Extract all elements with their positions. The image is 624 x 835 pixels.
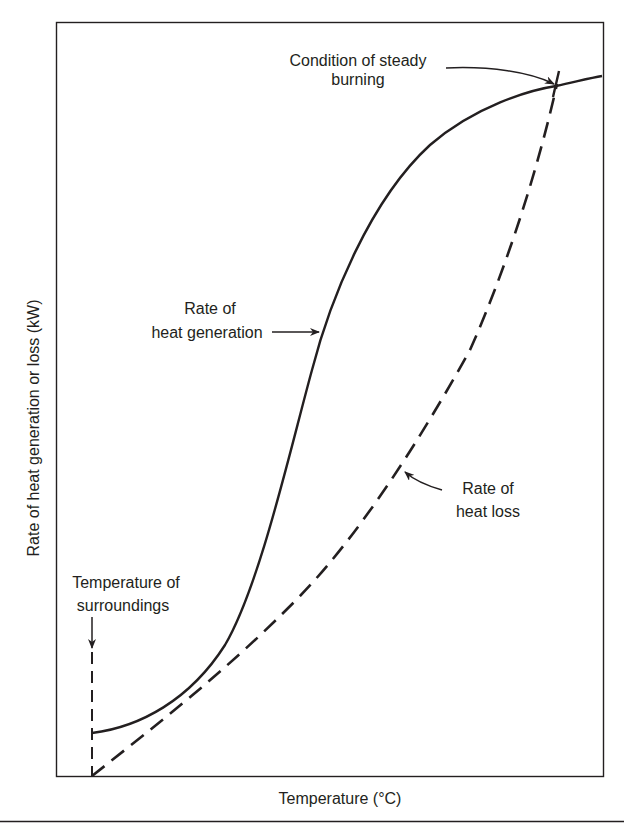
heat-generation-label-line1: Rate of [184, 300, 236, 317]
steady-burning-label-line2: burning [331, 71, 384, 88]
surroundings-label-line1: Temperature of [72, 574, 180, 591]
heat-balance-chart: Condition of steady burning Rate of heat… [0, 0, 624, 835]
steady-burning-arrow-icon [446, 68, 554, 84]
heat-loss-curve [92, 84, 557, 776]
heat-loss-label-line2: heat loss [456, 503, 520, 520]
surroundings-label-line2: surroundings [77, 597, 170, 614]
heat-generation-curve [92, 76, 602, 733]
steady-burning-label-line1: Condition of steady [290, 52, 427, 69]
heat-loss-label-line1: Rate of [462, 480, 514, 497]
y-axis-label: Rate of heat generation or loss (kW) [25, 299, 42, 556]
plot-frame [57, 23, 604, 777]
x-axis-label: Temperature (°C) [279, 790, 402, 807]
heat-loss-arrow-icon [405, 472, 442, 490]
heat-generation-label-line2: heat generation [151, 324, 262, 341]
